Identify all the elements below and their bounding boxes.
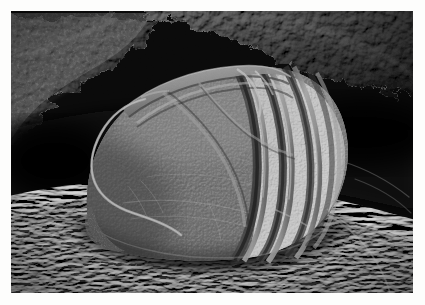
vignette-overlay xyxy=(11,11,413,293)
micrograph-frame xyxy=(11,11,413,293)
sem-micrograph-image xyxy=(11,11,413,293)
image-page: Scanning electron micrograph of a shelle… xyxy=(0,0,425,305)
